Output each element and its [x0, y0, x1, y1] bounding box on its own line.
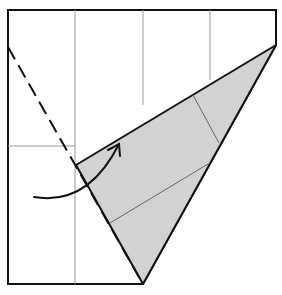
fold-diagram	[0, 0, 282, 295]
